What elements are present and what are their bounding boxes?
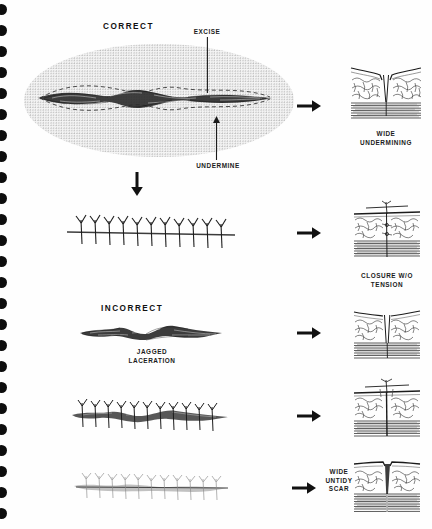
binding-hole (0, 25, 7, 36)
jagged-laceration-figure (76, 320, 226, 346)
binding-hole (0, 508, 7, 519)
panel-label-closure-without-tension: CLOSURE W/O TENSION (343, 272, 431, 289)
binding-hole (0, 67, 7, 78)
closed-suture-row-figure (65, 210, 237, 250)
binding-hole (0, 382, 7, 393)
binding-hole (0, 256, 7, 267)
binding-hole (0, 403, 7, 414)
right-arrow-2 (297, 226, 322, 240)
binding-hole (0, 298, 7, 309)
right-arrow-4 (297, 409, 322, 423)
binding-hole (0, 277, 7, 288)
callout-undermine: UNDERMINE (185, 162, 251, 171)
binding-hole (0, 172, 7, 183)
binding-hole (0, 361, 7, 372)
excised-ellipse-figure (30, 75, 280, 121)
binding-hole (0, 46, 7, 57)
binding-hole (0, 424, 7, 435)
binding-hole (0, 487, 7, 498)
binding-hole (0, 340, 7, 351)
down-arrow-1 (130, 172, 144, 197)
right-arrow-5 (292, 481, 317, 495)
panel-jagged-sutured (352, 378, 422, 440)
right-arrow-1 (297, 99, 322, 113)
binding-hole (0, 319, 7, 330)
panel-label-wide-undermining: WIDE UNDERMINING (343, 130, 429, 147)
book-page: CORRECT (0, 0, 432, 529)
binding-hole (0, 151, 7, 162)
right-arrow-3 (297, 326, 322, 340)
panel-wide-undermining (349, 58, 423, 124)
spiral-binding (0, 0, 16, 529)
binding-hole (0, 214, 7, 225)
binding-hole (0, 88, 7, 99)
excise-leader-line (206, 37, 209, 93)
binding-hole (0, 109, 7, 120)
binding-hole (0, 235, 7, 246)
heading-correct: CORRECT (103, 22, 154, 31)
binding-hole (0, 4, 7, 15)
binding-hole (0, 466, 7, 477)
callout-jagged-laceration: JAGGED LACERATION (110, 348, 194, 365)
binding-hole (0, 130, 7, 141)
untidy-scar-row-figure (70, 470, 234, 502)
binding-hole (0, 193, 7, 204)
jagged-suture-row-figure (68, 396, 234, 434)
heading-incorrect: INCORRECT (101, 304, 163, 313)
undermine-leader-arrow (212, 116, 221, 160)
panel-jagged-open (352, 302, 422, 364)
binding-hole (0, 445, 7, 456)
panel-wide-untidy-scar (352, 452, 422, 518)
callout-excise: EXCISE (177, 28, 237, 37)
panel-closure-without-tension (352, 200, 422, 264)
